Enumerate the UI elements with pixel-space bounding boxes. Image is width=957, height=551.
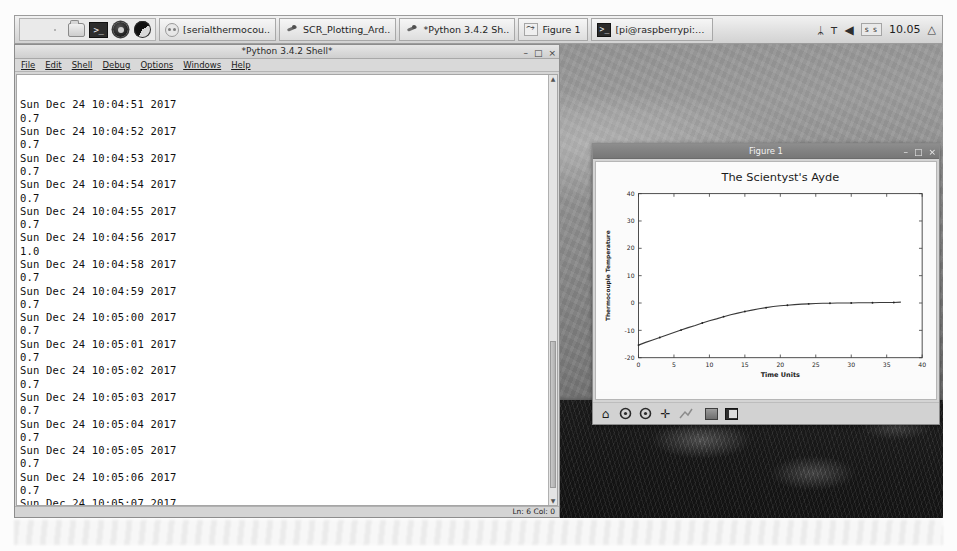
data-point-marker	[765, 307, 767, 309]
y-axis-label: Thermocouple Temperature	[605, 230, 612, 321]
menu-file[interactable]: File	[21, 60, 35, 70]
x-tick-label: 40	[918, 361, 926, 368]
data-point-marker	[808, 303, 810, 305]
x-tick-label: 30	[847, 361, 855, 368]
figure-canvas[interactable]: The Scientyst's Ayde0510152025303540-20-…	[595, 161, 937, 400]
y-tick-label: 30	[627, 217, 635, 224]
menu-windows[interactable]: Windows	[183, 60, 221, 70]
python-shell-window: *Python 3.4.2 Shell* – □ × File Edit She…	[14, 44, 560, 518]
x-tick-label: 20	[776, 361, 784, 368]
data-point-marker	[829, 302, 831, 304]
data-point-marker	[659, 337, 661, 339]
y-tick-label: -10	[625, 327, 635, 334]
taskbar-window-python-shell[interactable]: *Python 3.4.2 Sh..	[399, 18, 515, 41]
volume-icon[interactable]: ◀	[845, 24, 854, 36]
clock-label[interactable]: 10.05	[889, 23, 921, 36]
scrollbar-thumb[interactable]	[550, 341, 556, 487]
keyboard-layout-indicator[interactable]: s s	[861, 23, 882, 36]
shell-output-text[interactable]: Sun Dec 24 10:04:51 2017 0.7 Sun Dec 24 …	[17, 75, 548, 505]
wolfram-icon[interactable]	[133, 20, 152, 39]
data-point-marker	[723, 316, 725, 318]
taskbar-window-label: *Python 3.4.2 Sh..	[423, 24, 509, 35]
scroll-down-arrow-icon[interactable]: ▼	[549, 497, 557, 505]
menu-options[interactable]: Options	[140, 60, 173, 70]
taskbar-window-scr-plotting-ard[interactable]: SCR_Plotting_Ard..	[279, 18, 396, 41]
taskbar-window-terminal-pi[interactable]: >_ [pi@raspberrypi: ~]	[591, 18, 713, 41]
shell-vertical-scrollbar[interactable]: ▲ ▼	[548, 75, 557, 505]
y-tick-label: 10	[627, 272, 635, 279]
window-controls: – □ ×	[523, 45, 556, 61]
x-tick-label: 5	[672, 361, 676, 368]
web-browser-icon[interactable]	[45, 20, 64, 39]
data-point-marker	[893, 302, 895, 304]
configure-subplots-button[interactable]	[702, 405, 721, 423]
serial-monitor-icon	[165, 23, 179, 37]
taskbar-window-label: Figure 1	[542, 24, 580, 35]
taskbar-window-label: [serialthermocou..	[183, 24, 270, 35]
terminal-glyph: >_	[89, 22, 108, 38]
mathematica-icon[interactable]	[111, 20, 130, 39]
minimize-button[interactable]: –	[523, 49, 528, 58]
wifi-icon[interactable]: ᴛ	[831, 24, 838, 36]
figure-title: Figure 1	[593, 146, 939, 156]
frame-edge-left	[0, 0, 14, 551]
y-tick-label: 40	[627, 190, 635, 197]
eject-icon[interactable]: △	[928, 23, 936, 36]
gear-glyph	[113, 22, 128, 37]
scroll-up-arrow-icon[interactable]: ▲	[549, 75, 557, 83]
forward-arrow-button[interactable]	[636, 405, 655, 423]
pan-move-button[interactable]: ✛	[656, 405, 675, 423]
menu-help[interactable]: Help	[231, 60, 250, 70]
back-arrow-button[interactable]	[616, 405, 635, 423]
figure-window-icon	[524, 23, 538, 37]
frame-edge-bottom	[0, 518, 957, 551]
bluetooth-icon[interactable]: ᛦ	[817, 24, 824, 36]
x-tick-label: 15	[741, 361, 749, 368]
menu-edit[interactable]: Edit	[45, 60, 61, 70]
maximize-button[interactable]: □	[914, 148, 923, 157]
terminal-icon[interactable]: >_	[89, 20, 108, 39]
chart-title: The Scientyst's Ayde	[720, 170, 839, 184]
taskbar-window-label: [pi@raspberrypi: ~]	[615, 24, 707, 35]
python-file-icon	[285, 23, 299, 37]
subplots-icon	[705, 408, 718, 420]
file-manager-icon[interactable]	[67, 20, 86, 39]
floppy-disk-icon	[725, 408, 738, 420]
data-point-marker	[680, 329, 682, 331]
taskbar-window-label: SCR_Plotting_Ard..	[303, 24, 390, 35]
frame-reflection	[14, 520, 943, 545]
plot-svg: The Scientyst's Ayde0510152025303540-20-…	[596, 162, 936, 391]
launcher-group: >_	[19, 18, 156, 41]
y-tick-label: -20	[625, 354, 635, 361]
figure-titlebar[interactable]: Figure 1 – □ ×	[593, 144, 939, 159]
globe-glyph	[54, 29, 56, 31]
x-tick-label: 10	[706, 361, 714, 368]
minimize-button[interactable]: –	[903, 148, 908, 157]
maximize-button[interactable]: □	[534, 49, 543, 58]
y-tick-label: 0	[631, 299, 635, 306]
data-point-marker	[638, 344, 640, 346]
data-point-marker	[850, 302, 852, 304]
toolbar-separator	[696, 405, 701, 423]
data-point-marker	[786, 304, 788, 306]
x-tick-label: 0	[637, 361, 641, 368]
zoom-rect-button[interactable]	[676, 405, 695, 423]
taskbar-window-figure-1[interactable]: Figure 1	[518, 18, 588, 41]
forward-arrow-icon	[639, 407, 652, 420]
y-tick-label: 20	[627, 244, 635, 251]
home-button[interactable]: ⌂	[596, 405, 615, 423]
menu-debug[interactable]: Debug	[102, 60, 130, 70]
taskbar-window-serialthermocouple[interactable]: [serialthermocou..	[159, 18, 276, 41]
python-shell-titlebar[interactable]: *Python 3.4.2 Shell* – □ ×	[15, 45, 559, 59]
python-shell-statusbar: Ln: 6 Col: 0	[15, 506, 559, 517]
data-point-marker	[744, 311, 746, 313]
frame-edge-top	[0, 0, 957, 15]
system-tray: ᛦ ᴛ ◀ s s 10.05 △	[817, 23, 938, 36]
save-figure-button[interactable]	[722, 405, 741, 423]
raspberry-menu-icon[interactable]	[23, 20, 42, 39]
screen-root: >_ [serialthermocou.. SCR_Plotting_Ard..	[0, 0, 957, 551]
close-button[interactable]: ×	[928, 148, 936, 157]
close-button[interactable]: ×	[548, 49, 556, 58]
python-file-icon	[405, 23, 419, 37]
menu-shell[interactable]: Shell	[72, 60, 93, 70]
